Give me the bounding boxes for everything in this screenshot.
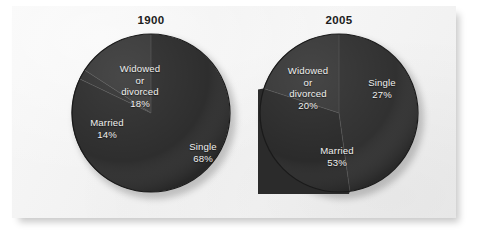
chart-title-2005: 2005: [244, 14, 434, 26]
pie-chart-2005: 2005: [244, 0, 434, 212]
pie-sheen-overlay: [260, 34, 418, 192]
chart-title-1900: 1900: [56, 14, 246, 26]
figure-root: 1900: [0, 0, 491, 250]
pie-chart-1900: 1900: [56, 0, 246, 212]
pie-svg-1900: [70, 32, 232, 194]
pie-graphic-1900: Single 68% Married 14% Widowed or divorc…: [70, 32, 232, 194]
pie-svg-2005: [258, 32, 420, 194]
pie-graphic-2005: Single 27% Married 53% Widowed or divorc…: [258, 32, 420, 194]
pie-sheen-overlay: [72, 34, 230, 192]
